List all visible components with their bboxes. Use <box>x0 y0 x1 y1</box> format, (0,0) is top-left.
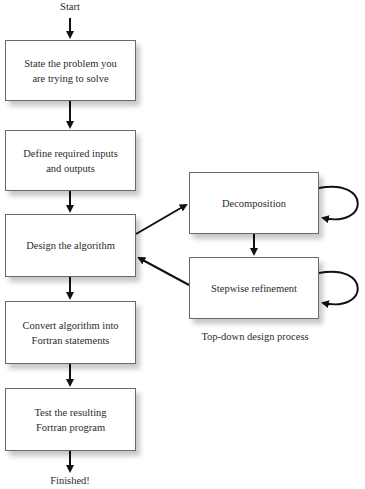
step-text: Test the resulting <box>34 407 106 418</box>
step-text: Define required inputs <box>23 148 117 159</box>
arrow-stepwise-to-design <box>139 258 189 285</box>
step-define-io: Define required inputsand outputs <box>5 130 136 191</box>
step-text: Fortran statements <box>32 335 110 346</box>
substep-text: Stepwise refinement <box>211 281 297 296</box>
step-text: are trying to solve <box>32 73 108 84</box>
step-test-program: Test the resultingFortran program <box>5 388 136 451</box>
substep-decomposition: Decomposition <box>189 172 319 234</box>
substep-text: Decomposition <box>222 196 286 211</box>
start-label: Start <box>45 1 95 12</box>
loop-stepwise <box>319 272 358 305</box>
loop-decomposition <box>319 187 358 220</box>
step-state-problem: State the problem youare trying to solve <box>5 40 136 101</box>
substep-stepwise-refinement: Stepwise refinement <box>189 257 319 319</box>
step-text: Design the algorithm <box>26 240 115 251</box>
step-convert-fortran: Convert algorithm intoFortran statements <box>5 301 136 364</box>
finished-label: Finished! <box>35 475 105 486</box>
step-text: Convert algorithm into <box>22 320 118 331</box>
arrow-design-to-decomposition <box>136 205 186 234</box>
step-text: State the problem you <box>24 58 116 69</box>
step-text: Fortran program <box>36 422 105 433</box>
step-text: and outputs <box>46 163 95 174</box>
subprocess-caption: Top-down design process <box>190 331 320 342</box>
step-design-algorithm: Design the algorithm <box>5 214 136 277</box>
